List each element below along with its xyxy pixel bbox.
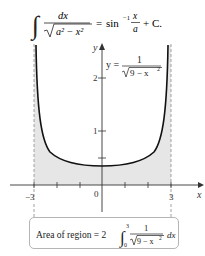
x-axis-label: x (196, 189, 202, 200)
x-tick-label-0: 0 (94, 189, 99, 199)
x-axis-arrow-icon (198, 182, 204, 188)
callout-prefix: Area of region = 2 (36, 230, 106, 240)
curve-label-numerator: 1 (137, 55, 142, 65)
y-tick-label-1: 1 (93, 126, 98, 136)
curve-label-lhs: y = (106, 59, 120, 70)
y-axis-label: y (92, 42, 98, 53)
callout-numerator: 1 (144, 223, 148, 233)
y-axis-arrow-icon (99, 43, 105, 50)
curve-equation-label: y = 1 9 − x 2 (106, 55, 162, 78)
curve-label-denominator: 9 − x (130, 68, 149, 78)
callout-exp: 2 (159, 235, 162, 241)
area-callout: Area of region = 2 ∫ 3 0 1 9 − x 2 dx (29, 217, 179, 249)
callout-lower-limit: 0 (124, 242, 127, 248)
y-tick-label-2: 2 (93, 73, 98, 83)
x-tick-label-neg3: −3 (25, 192, 35, 202)
x-tick-label-3: 3 (169, 192, 174, 202)
callout-upper-limit: 3 (126, 223, 129, 229)
callout-differential: dx (167, 230, 176, 240)
callout-denominator: 9 − x (137, 237, 154, 246)
area-callout-svg: Area of region = 2 ∫ 3 0 1 9 − x 2 dx (30, 218, 180, 250)
curve-label-exp: 2 (157, 66, 160, 72)
